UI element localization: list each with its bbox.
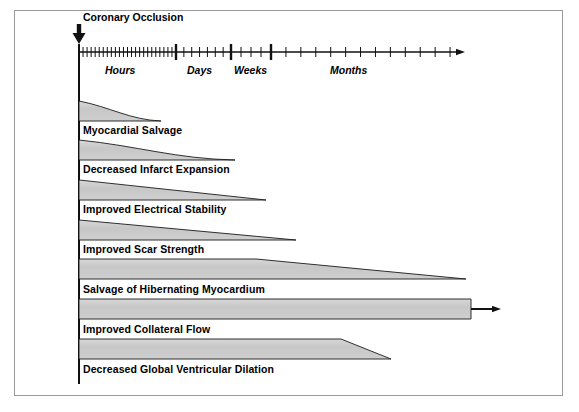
bar-label-4: Improved Scar Strength bbox=[83, 243, 204, 255]
bar-label-2: Decreased Infarct Expansion bbox=[83, 163, 230, 175]
bar-label-5: Salvage of Hibernating Myocardium bbox=[83, 283, 265, 295]
timescale-days-label: Days bbox=[187, 64, 212, 76]
occlusion-arrow bbox=[73, 24, 86, 44]
bar-label-3: Improved Electrical Stability bbox=[83, 203, 227, 215]
timescale-hours-label: Hours bbox=[105, 64, 135, 76]
bar-label-7: Decreased Global Ventricular Dilation bbox=[83, 363, 274, 375]
bars-group bbox=[79, 101, 492, 359]
bar-label-6: Improved Collateral Flow bbox=[83, 323, 210, 335]
timescale-weeks-label: Weeks bbox=[234, 64, 267, 76]
bar-label-1: Myocardial Salvage bbox=[83, 124, 182, 136]
timescale-months-label: Months bbox=[330, 64, 367, 76]
coronary-occlusion-label: Coronary Occlusion bbox=[83, 11, 183, 23]
reperfusion-benefits-diagram: Coronary Occlusion Hours Days Weeks Mont… bbox=[0, 0, 579, 412]
